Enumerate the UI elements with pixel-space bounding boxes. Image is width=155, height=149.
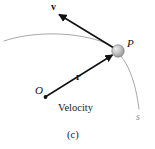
figure-caption: (c)	[67, 130, 79, 141]
velocity-diagram-figure: v r P O s Velocity (c)	[0, 0, 155, 149]
point-p-label: P	[127, 38, 134, 49]
origin-point-dot	[44, 95, 48, 99]
figure-title: Velocity	[58, 103, 93, 114]
particle-marker	[112, 45, 124, 57]
position-vector-label: r	[76, 72, 80, 82]
arc-length-label: s	[136, 112, 140, 122]
origin-label: O	[35, 85, 43, 96]
velocity-vector-label: v	[51, 2, 56, 12]
velocity-vector-arrow	[59, 15, 114, 49]
